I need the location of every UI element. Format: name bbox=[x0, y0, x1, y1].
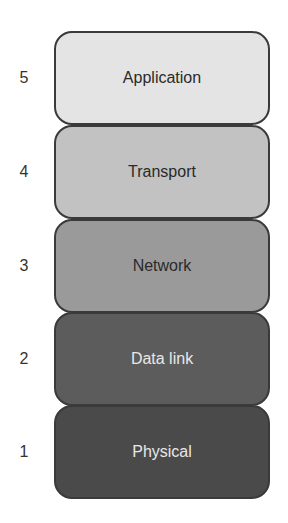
layer-number: 1 bbox=[14, 405, 34, 499]
layer-box-transport: Transport bbox=[54, 125, 270, 219]
layer-label: Network bbox=[133, 257, 192, 275]
layer-row-network: 3 Network bbox=[0, 219, 288, 313]
layer-label: Physical bbox=[132, 443, 192, 461]
layer-number: 5 bbox=[14, 31, 34, 125]
layer-box-network: Network bbox=[54, 219, 270, 313]
layer-box-physical: Physical bbox=[54, 405, 270, 499]
layer-number: 2 bbox=[14, 312, 34, 406]
layer-row-transport: 4 Transport bbox=[0, 125, 288, 219]
layer-box-data-link: Data link bbox=[54, 312, 270, 406]
layer-number: 4 bbox=[14, 125, 34, 219]
layer-label: Application bbox=[123, 69, 201, 87]
layer-number: 3 bbox=[14, 219, 34, 313]
layer-row-application: 5 Application bbox=[0, 31, 288, 125]
layer-label: Data link bbox=[131, 350, 193, 368]
layer-row-physical: 1 Physical bbox=[0, 405, 288, 499]
layer-box-application: Application bbox=[54, 31, 270, 125]
layer-label: Transport bbox=[128, 163, 196, 181]
layer-row-data-link: 2 Data link bbox=[0, 312, 288, 406]
